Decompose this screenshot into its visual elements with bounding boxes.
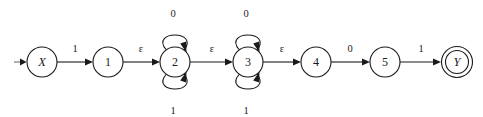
transition-edge-3-4 bbox=[263, 58, 301, 65]
state-label-3: 3 bbox=[245, 55, 251, 69]
loop-label-state3-bottom: 1 bbox=[243, 105, 248, 116]
state-label-5: 5 bbox=[382, 55, 388, 69]
state-node-2[interactable]: 2 bbox=[160, 47, 190, 77]
state-label-4: 4 bbox=[313, 55, 319, 69]
transition-edge-5-Y bbox=[400, 58, 441, 65]
automaton-canvas: X 1 2 3 4 5 Y 1 ε ε ε 0 bbox=[0, 0, 483, 117]
state-label-1: 1 bbox=[105, 55, 111, 69]
edge-label-1-2: ε bbox=[139, 43, 144, 54]
edge-label-5-Y: 1 bbox=[418, 43, 423, 54]
transition-edge-2-3 bbox=[190, 58, 233, 65]
state-node-5[interactable]: 5 bbox=[370, 47, 400, 77]
edge-label-X-1: 1 bbox=[72, 43, 77, 54]
state-node-Y-accepting[interactable]: Y bbox=[442, 47, 473, 78]
transition-edge-X-1 bbox=[57, 58, 93, 65]
state-node-1[interactable]: 1 bbox=[93, 47, 123, 77]
transition-edge-4-5 bbox=[331, 58, 370, 65]
loop-label-state2-bottom: 1 bbox=[170, 105, 175, 116]
edge-label-2-3: ε bbox=[210, 43, 215, 54]
state-label-2: 2 bbox=[172, 55, 178, 69]
start-arrow-icon bbox=[14, 59, 27, 66]
loop-label-state3-top: 0 bbox=[243, 8, 248, 19]
state-node-4[interactable]: 4 bbox=[301, 47, 331, 77]
state-node-X[interactable]: X bbox=[27, 47, 57, 77]
transition-edge-1-2 bbox=[123, 58, 160, 65]
edge-label-3-4: ε bbox=[280, 43, 285, 54]
edge-label-4-5: 0 bbox=[347, 43, 352, 54]
automaton-figure: X 1 2 3 4 5 Y 1 ε ε ε 0 bbox=[0, 0, 483, 117]
state-node-3[interactable]: 3 bbox=[233, 47, 263, 77]
loop-label-state2-top: 0 bbox=[170, 8, 175, 19]
state-label-X: X bbox=[37, 55, 47, 69]
